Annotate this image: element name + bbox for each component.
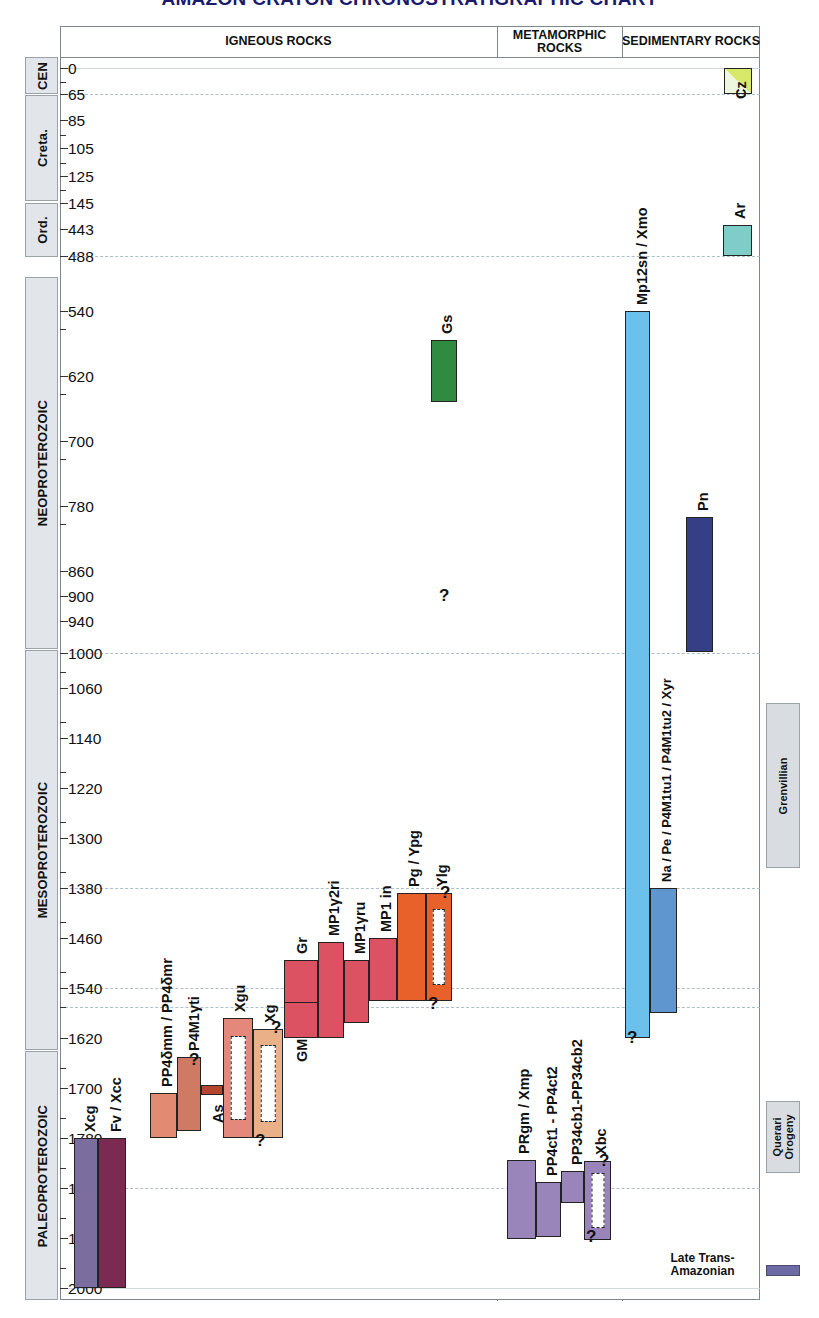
axis-tick: [60, 1068, 66, 1069]
orogeny-label: Grenvillian: [777, 757, 789, 814]
gridline: [60, 1188, 760, 1189]
axis-tick: [60, 1007, 66, 1008]
axis-tick: [60, 938, 68, 939]
axis-tick-label: 1000: [68, 646, 102, 662]
axis-tick-label: 1460: [68, 931, 102, 947]
axis-tick: [60, 1168, 66, 1169]
igneous-unit-label: MP1 in: [378, 885, 394, 932]
igneous-unit-box: [223, 1018, 253, 1138]
sedimentary-unit-box: [686, 517, 713, 652]
axis-tick-label: 1140: [68, 731, 101, 747]
orogeny-band-querari: Querari Orogeny: [766, 1101, 800, 1173]
axis-tick: [60, 653, 68, 654]
uncertainty-marker-igneous: ?: [439, 586, 449, 606]
axis-tick: [60, 1118, 66, 1119]
era-label: NEOPROTEROZOIC: [34, 400, 49, 526]
igneous-unit-box: [397, 893, 426, 1001]
axis-tick-label: 540: [68, 304, 94, 320]
igneous-unit-box: [369, 938, 397, 1001]
gridline: [60, 256, 760, 257]
axis-tick-label: 860: [68, 564, 94, 580]
axis-tick-label: 125: [68, 169, 94, 185]
axis-tick: [60, 722, 66, 723]
axis-tick: [60, 135, 66, 136]
axis-tick: [60, 256, 68, 257]
igneous-unit-box: [253, 1029, 283, 1138]
sedimentary-unit-label: Mp12sn / Xmo: [634, 208, 650, 306]
axis-tick-label: 0: [68, 61, 77, 77]
uncertainty-marker: ?: [255, 1131, 265, 1151]
era-band-paleoproterozoic: PALEOPROTEROZOIC: [25, 1051, 58, 1300]
axis-tick: [60, 459, 66, 460]
axis-tick: [60, 788, 68, 789]
axis-tick: [60, 772, 66, 773]
gridline: [60, 1288, 760, 1289]
uncertainty-marker: ?: [271, 1018, 281, 1038]
axis-tick: [60, 988, 68, 989]
axis-tick-label: 700: [68, 434, 94, 450]
era-column: CENCreta.Ord.NEOPROTEROZOICMESOPROTEROZO…: [25, 57, 58, 1300]
igneous-unit-label: Xcg: [82, 1105, 98, 1132]
sedimentary-unit-label: Na / Pe / P4M1tu1 / P4M1tu2 / Xyr: [659, 678, 674, 882]
uncertainty-marker: ?: [189, 1050, 199, 1070]
sedimentary-unit-label: Cz: [733, 81, 749, 99]
axis-tick: [60, 176, 68, 177]
metamorphic-unit-box: [507, 1160, 536, 1239]
era-band-cen: CEN: [25, 57, 58, 94]
igneous-unit-label: P4M1γti: [186, 996, 202, 1051]
uncertainty-marker: ?: [428, 994, 438, 1014]
orogeny-band-grenvillian: Grenvillian: [766, 703, 800, 868]
metamorphic-unit-label: PP34cb1-PP34cb2: [569, 1039, 585, 1165]
metamorphic-unit-box: [536, 1182, 561, 1237]
igneous-unit-label: Gs: [439, 315, 455, 334]
gridline: [60, 94, 760, 95]
axis-tick: [60, 571, 68, 572]
era-label: CEN: [34, 61, 49, 89]
igneous-unit-label: Pg / Ypg: [406, 830, 422, 887]
axis-tick: [60, 311, 68, 312]
axis-tick: [60, 1218, 66, 1219]
chart-title: AMAZON CRATON CHRONOSTRATIGRAPHIC CHART: [0, 0, 819, 10]
axis-tick: [60, 621, 68, 622]
uncertainty-marker: ?: [586, 1227, 596, 1247]
metamorphic-unit-label: PP4ct1 - PP4ct2: [544, 1066, 560, 1176]
igneous-unit-label: PP4δmm / PP4δmr: [159, 958, 175, 1087]
uncertainty-marker: ?: [599, 1151, 609, 1171]
legend-swatch: [766, 1265, 800, 1276]
gridline: [60, 68, 760, 69]
igneous-unit-box: [98, 1138, 126, 1288]
igneous-unit-box: [150, 1093, 177, 1138]
axis-tick: [60, 1088, 68, 1089]
era-band-neoproterozoic: NEOPROTEROZOIC: [25, 277, 58, 649]
axis-tick-label: 1380: [68, 881, 102, 897]
igneous-unit-label: Fv / Xcc: [108, 1077, 124, 1132]
axis-tick: [60, 524, 66, 525]
axis-tick-label: 940: [68, 614, 94, 630]
axis-tick-label: 488: [68, 249, 94, 265]
axis-tick: [60, 506, 68, 507]
axis-tick: [60, 1188, 68, 1189]
column-header-igneous: IGNEOUS ROCKS: [60, 26, 497, 58]
axis-tick: [60, 1288, 68, 1289]
sedimentary-unit-label: Ar: [732, 203, 748, 219]
axis-tick: [60, 672, 66, 673]
axis-tick-label: 65: [68, 87, 85, 103]
era-label: PALEOPROTEROZOIC: [34, 1104, 49, 1246]
igneous-unit-box: [284, 960, 318, 1003]
igneous-unit-box: [318, 942, 344, 1038]
igneous-unit-label: Xgu: [232, 985, 248, 1012]
era-band-mesoproterozoic: MESOPROTEROZOIC: [25, 650, 58, 1050]
axis-tick: [60, 922, 66, 923]
axis-tick-label: 1620: [68, 1031, 102, 1047]
axis-tick: [60, 376, 68, 377]
legend-label: Late Trans- Amazonian: [650, 1252, 755, 1279]
axis-tick: [60, 738, 68, 739]
axis-tick: [60, 394, 66, 395]
igneous-unit-label: GM: [294, 1039, 310, 1062]
axis-tick-label: 1700: [68, 1081, 102, 1097]
metamorphic-unit-label: PRgm / Xmp: [516, 1069, 532, 1154]
axis-tick-label: 1540: [68, 981, 102, 997]
axis-tick-label: 620: [68, 369, 94, 385]
igneous-unit-label: MP1γ2ri: [326, 880, 342, 936]
axis-tick: [60, 1268, 66, 1269]
